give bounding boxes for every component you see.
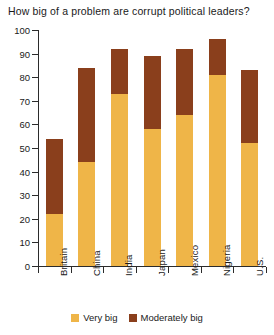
x-axis-label-india: India [123, 254, 134, 276]
y-axis-tick-label: 90 [0, 48, 30, 59]
legend-label: Moderately big [141, 312, 203, 323]
y-axis-tick-label: 20 [0, 213, 30, 224]
y-axis-tick-label: 70 [0, 95, 30, 106]
bar-segment-moderately-big[interactable] [176, 49, 193, 115]
x-axis-tick [103, 267, 104, 273]
legend-item[interactable]: Very big [71, 312, 117, 323]
y-axis-tick-label: 30 [0, 190, 30, 201]
chart-legend: Very bigModerately big [0, 312, 274, 323]
bar-group[interactable] [144, 30, 161, 266]
x-axis-tick [201, 267, 202, 273]
bar-segment-very-big[interactable] [209, 75, 226, 266]
x-axis-label-us: U.S. [254, 257, 265, 276]
bar-segment-moderately-big[interactable] [111, 49, 128, 94]
bar-segment-very-big[interactable] [144, 129, 161, 266]
bar-segment-very-big[interactable] [176, 115, 193, 266]
bar-segment-very-big[interactable] [111, 94, 128, 266]
plot-area [38, 30, 266, 266]
bar-group[interactable] [176, 30, 193, 266]
bar-group[interactable] [46, 30, 63, 266]
bar-group[interactable] [111, 30, 128, 266]
bar-segment-moderately-big[interactable] [46, 139, 63, 215]
y-axis-tick-label: 40 [0, 166, 30, 177]
y-axis-tick-label: 50 [0, 143, 30, 154]
y-axis-tick-label: 80 [0, 72, 30, 83]
legend-item[interactable]: Moderately big [129, 312, 203, 323]
y-axis-tick-label: 100 [0, 25, 30, 36]
x-axis-label-mexico: Mexico [189, 245, 200, 276]
bar-segment-moderately-big[interactable] [144, 56, 161, 129]
x-axis-tick [71, 267, 72, 273]
x-axis-tick [233, 267, 234, 273]
bar-segment-moderately-big[interactable] [241, 70, 258, 143]
bar-group[interactable] [241, 30, 258, 266]
bar-segment-moderately-big[interactable] [78, 68, 95, 162]
legend-swatch-icon [71, 314, 79, 322]
x-axis-tick [38, 267, 39, 273]
bar-segment-moderately-big[interactable] [209, 39, 226, 74]
legend-swatch-icon [129, 314, 137, 322]
legend-label: Very big [83, 312, 117, 323]
chart-title: How big of a problem are corrupt politic… [8, 5, 270, 17]
y-axis-tick-label: 0 [0, 261, 30, 272]
x-axis-tick [136, 267, 137, 273]
x-axis-label-china: China [91, 250, 102, 276]
bar-group[interactable] [78, 30, 95, 266]
y-axis-labels: 0102030405060708090100 [0, 0, 30, 335]
bar-group[interactable] [209, 30, 226, 266]
x-axis-tick [168, 267, 169, 273]
x-axis-tick [266, 267, 267, 273]
x-axis-label-britain: Britain [58, 248, 69, 276]
bar-segment-very-big[interactable] [241, 143, 258, 266]
stacked-bar-chart: How big of a problem are corrupt politic… [0, 0, 274, 335]
y-axis-tick-label: 10 [0, 237, 30, 248]
x-axis-label-japan: Japan [156, 249, 167, 276]
x-axis-label-nigeria: Nigeria [221, 245, 232, 277]
y-axis-tick-label: 60 [0, 119, 30, 130]
